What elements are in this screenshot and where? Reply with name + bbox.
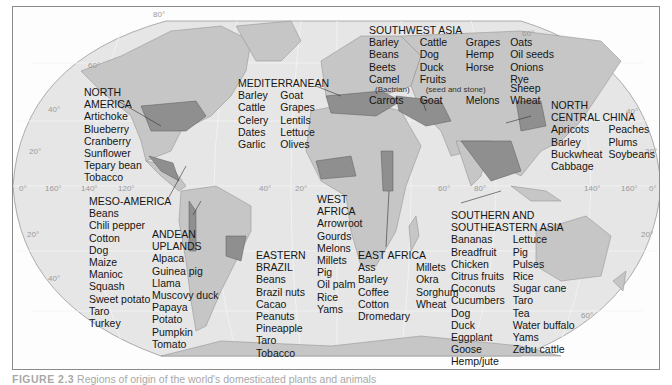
lat-label: 60° [88, 61, 100, 70]
crop-item: Blueberry [84, 123, 142, 135]
figure-label: FIGURE 2.3 [12, 373, 74, 385]
crop-item: Cotton [358, 298, 410, 310]
region-heading: EAST AFRICA [358, 249, 459, 261]
crop-item: Pig [513, 246, 575, 258]
crop-item: Camel [369, 73, 410, 85]
crop-item: Dog [451, 307, 505, 319]
crop-note: (Bactrian) [369, 85, 410, 94]
lon-label: 140° [584, 184, 601, 193]
crop-item: Breadfruit [451, 246, 505, 258]
crop-item: Garlic [238, 138, 268, 150]
crop-item: Barley [238, 89, 268, 101]
lon-label: 160° [45, 184, 62, 193]
region-label-southwest-asia: SOUTHWEST ASIA Barley Beans Beets Camel … [369, 24, 554, 106]
lat-label: 0° [19, 184, 27, 193]
region-heading: SOUTHWEST ASIA [369, 24, 554, 36]
crop-item: Pig [317, 266, 363, 278]
crop-item: Rice [317, 291, 363, 303]
crop-item: Cacao [256, 298, 306, 310]
region-label-andean-uplands: ANDEAN UPLANDS Alpaca Guinea pig Llama M… [152, 228, 219, 350]
crop-item: Bananas [451, 233, 505, 245]
crop-item: Hemp [466, 48, 500, 60]
crop-item: Zebu cattle [513, 343, 575, 355]
crop-item: Coconuts [451, 282, 505, 294]
crop-item: Oil palm [317, 278, 363, 290]
crop-item: Eggplant [451, 331, 505, 343]
region-heading: SOUTHERN AND [451, 209, 575, 221]
crop-item: Chicken [451, 258, 505, 270]
lat-label: 20° [641, 230, 653, 239]
crop-item: Pumpkin [152, 326, 219, 338]
crop-item: Yams [317, 303, 363, 315]
crop-item: Olives [280, 138, 314, 150]
crop-item: Pulses [513, 258, 575, 270]
lat-label: 20° [29, 147, 41, 156]
crop-item: Sunflower [84, 147, 142, 159]
lon-label: 60° [438, 184, 450, 193]
lat-label: 60° [581, 311, 593, 320]
crop-item: Citrus fruits [451, 270, 505, 282]
crop-item: Coffee [358, 286, 410, 298]
crop-item-blank [466, 73, 500, 85]
region-heading: WEST [317, 193, 363, 205]
crop-item: Carrots [369, 94, 410, 106]
region-heading: CENTRAL CHINA [551, 111, 655, 123]
crop-item: Potato [152, 313, 219, 325]
crop-item: Beans [369, 48, 410, 60]
crop-item: Muscovy duck [152, 289, 219, 301]
crop-item: Lettuce [513, 233, 575, 245]
region-label-eastern-brazil: EASTERN BRAZIL Beans Brazil nuts Cacao P… [256, 249, 306, 359]
crop-item: Taro [256, 334, 306, 346]
crop-item: Peaches [608, 123, 655, 135]
crop-item: Papaya [152, 301, 219, 313]
crop-item: Beans [256, 273, 306, 285]
crop-item: Buckwheat [551, 148, 602, 160]
region-heading: SOUTHEASTERN ASIA [451, 221, 575, 233]
region-label-east-africa: EAST AFRICA Ass Barley Coffee Cotton Dro… [358, 249, 459, 322]
crop-item: Arrowroot [317, 217, 363, 229]
region-heading: MESO-AMERICA [89, 195, 171, 207]
crop-item: Cattle [238, 101, 268, 113]
crop-item: Cabbage [551, 160, 602, 172]
crop-item: Celery [238, 114, 268, 126]
crop-item: Beets [369, 61, 410, 73]
figure-caption-text: Regions of origin of the world's domesti… [77, 373, 376, 385]
crop-item: Dates [238, 126, 268, 138]
crop-item: Dromedary [358, 310, 410, 322]
region-heading: AFRICA [317, 205, 363, 217]
crop-item: Millets [317, 254, 363, 266]
crop-item: Onions [510, 61, 554, 73]
crop-item: Sheep [510, 82, 554, 94]
crop-item: Brazil nuts [256, 286, 306, 298]
crop-item: Rice [513, 270, 575, 282]
region-label-mediterranean: MEDITERRANEAN Barley Cattle Celery Dates… [238, 77, 329, 150]
crop-note-blank [466, 85, 500, 94]
lon-label: 20° [295, 184, 307, 193]
lat-label: 40° [48, 274, 60, 283]
region-heading: UPLANDS [152, 240, 219, 252]
crop-item: Hemp/jute [451, 355, 505, 367]
crop-item: Cranberry [84, 135, 142, 147]
crop-item: Tepary bean [84, 159, 142, 171]
region-heading: NORTH [551, 99, 655, 111]
lat-label: 80° [153, 10, 165, 19]
crop-item: Goat [280, 89, 314, 101]
crop-item: Artichoke [84, 110, 142, 122]
crop-item: Sugar cane [513, 282, 575, 294]
crop-item: Grapes [280, 101, 314, 113]
lon-label: 120° [118, 184, 135, 193]
crop-item: Water buffalo [513, 319, 575, 331]
crop-item: Horse [466, 61, 500, 73]
crop-item: Gourds [317, 230, 363, 242]
lat-label: 20° [27, 230, 39, 239]
crop-item: Barley [369, 36, 410, 48]
region-label-west-africa: WEST AFRICA Arrowroot Gourds Melons Mill… [317, 193, 363, 315]
region-heading: NORTH [84, 86, 142, 98]
crop-item: Oil seeds [510, 48, 554, 60]
crop-item: Cucumbers [451, 294, 505, 306]
crop-item: Tomato [152, 338, 219, 350]
lon-label: 40° [259, 184, 271, 193]
region-label-north-america: NORTH AMERICA Artichoke Blueberry Cranbe… [84, 86, 142, 184]
crop-item: Llama [152, 277, 219, 289]
crop-item: Soybeans [608, 148, 655, 160]
